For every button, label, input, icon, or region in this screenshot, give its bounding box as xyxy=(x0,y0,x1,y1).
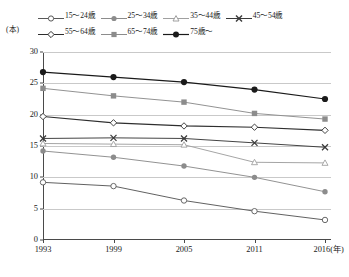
open-circle-marker-icon xyxy=(181,198,186,203)
series-line xyxy=(43,72,325,99)
legend-item-35-44[interactable]: 35～44歳 xyxy=(163,10,221,21)
filled-square-gray-marker-icon xyxy=(40,86,45,91)
open-diamond-marker-icon xyxy=(110,120,116,126)
filled-square-gray-marker-icon xyxy=(181,99,186,104)
open-diamond-marker-icon xyxy=(322,127,328,133)
filled-circle-gray-marker-icon xyxy=(322,189,327,194)
y-axis-tick-label: 0 xyxy=(34,236,38,244)
filled-circle-black-marker-icon xyxy=(181,79,187,85)
x-axis-tick-mark xyxy=(325,240,326,243)
chart-legend: (本) 15～24歳 25～34歳 xyxy=(0,6,341,40)
filled-circle-gray-marker-icon xyxy=(40,148,45,153)
x-axis-tick-mark xyxy=(255,240,256,243)
filled-square-gray-marker-icon xyxy=(322,116,327,121)
legend-item-65-74[interactable]: 65～74歳 xyxy=(101,26,159,37)
series-line xyxy=(43,151,325,192)
legend-label-15-24: 15～24歳 xyxy=(65,12,96,20)
filled-circle-black-marker-icon xyxy=(40,69,46,75)
series-1 xyxy=(40,148,327,194)
series-4 xyxy=(40,113,328,133)
y-axis-tick-label: 25 xyxy=(30,79,38,87)
filled-circle-gray-marker-icon xyxy=(181,163,186,168)
legend-label-75-plus: 75歳～ xyxy=(190,28,213,36)
legend-label-25-34: 25～34歳 xyxy=(128,12,159,20)
x-axis-tick-label: 1999 xyxy=(105,246,122,254)
x-axis-tick-mark xyxy=(114,240,115,243)
legend-item-25-34[interactable]: 25～34歳 xyxy=(101,10,159,21)
cross-x-marker-icon xyxy=(226,10,252,21)
x-axis-tick-label: 2011 xyxy=(246,246,262,254)
y-axis-tick-label: 5 xyxy=(34,204,38,212)
open-circle-marker-icon xyxy=(322,217,327,222)
x-axis-tick-label: 2005 xyxy=(176,246,193,254)
legend-label-65-74: 65～74歳 xyxy=(128,28,159,36)
legend-item-55-64[interactable]: 55～64歳 xyxy=(38,26,96,37)
legend-item-45-54[interactable]: 45～54歳 xyxy=(226,10,284,21)
filled-square-gray-marker-icon xyxy=(252,111,257,116)
series-2 xyxy=(40,140,328,165)
open-triangle-marker-icon xyxy=(163,10,189,21)
filled-circle-gray-marker-icon xyxy=(252,175,257,180)
series-layer xyxy=(43,52,331,240)
legend-row-2: 55～64歳 65～74歳 75歳～ xyxy=(0,24,349,39)
filled-circle-gray-marker-icon xyxy=(111,155,116,160)
y-axis-tick-label: 15 xyxy=(30,142,38,150)
open-circle-marker-icon xyxy=(111,183,116,188)
legend-label-45-54: 45～54歳 xyxy=(253,12,284,20)
x-axis-tick-mark xyxy=(184,240,185,243)
legend-label-55-64: 55～64歳 xyxy=(65,28,96,36)
open-diamond-marker-icon xyxy=(181,123,187,129)
series-0 xyxy=(40,180,327,223)
y-axis-tick-label: 30 xyxy=(30,48,38,56)
filled-circle-gray-marker-icon xyxy=(101,10,127,21)
open-diamond-marker-icon xyxy=(251,124,257,130)
open-circle-marker-icon xyxy=(38,10,64,21)
legend-item-15-24[interactable]: 15～24歳 xyxy=(38,10,96,21)
x-axis-tick-mark xyxy=(43,240,44,243)
legend-item-75-plus[interactable]: 75歳～ xyxy=(163,26,213,37)
x-axis-tick-label: 1993 xyxy=(35,246,52,254)
legend-row-1: 15～24歳 25～34歳 35～44歳 xyxy=(0,8,349,23)
filled-square-gray-marker-icon xyxy=(101,26,127,37)
filled-circle-black-marker-icon xyxy=(322,96,328,102)
series-5 xyxy=(40,86,327,122)
filled-circle-black-marker-icon xyxy=(251,87,257,93)
y-axis-tick-label: 20 xyxy=(30,110,38,118)
open-diamond-marker-icon xyxy=(38,26,64,37)
series-6 xyxy=(40,69,328,102)
filled-circle-black-marker-icon xyxy=(163,26,189,37)
x-axis-tick-label: 2016(年) xyxy=(313,246,343,254)
filled-square-gray-marker-icon xyxy=(111,93,116,98)
legend-label-35-44: 35～44歳 xyxy=(190,12,221,20)
open-circle-marker-icon xyxy=(252,208,257,213)
filled-circle-black-marker-icon xyxy=(110,74,116,80)
open-circle-marker-icon xyxy=(40,180,45,185)
plot-area: 051015202530 19931999200520112016(年) xyxy=(43,52,331,240)
y-axis-tick-label: 10 xyxy=(30,173,38,181)
